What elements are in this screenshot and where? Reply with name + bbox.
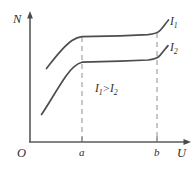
annotation-right-subscript: 2 <box>114 88 118 97</box>
intensity-inequality-annotation: I1>I2 <box>95 83 118 97</box>
curve-label-i1: I1 <box>170 16 178 30</box>
y-axis-arrowhead <box>27 11 33 19</box>
x-axis-label: U <box>177 147 186 160</box>
photoelectric-current-figure: N U O a b I1 I2 I1>I2 <box>0 0 196 169</box>
x-axis-arrowhead <box>184 139 192 145</box>
curve-label-i1-subscript: 1 <box>174 21 178 30</box>
x-tick-label-b: b <box>154 147 160 158</box>
curve-label-i2-subscript: 2 <box>174 47 178 56</box>
curve-label-i2: I2 <box>170 42 178 56</box>
origin-label: O <box>17 147 26 160</box>
x-tick-label-a: a <box>79 147 85 158</box>
y-axis-label: N <box>13 13 21 26</box>
annotation-relation: > <box>103 82 110 94</box>
lower-curve <box>42 46 169 115</box>
